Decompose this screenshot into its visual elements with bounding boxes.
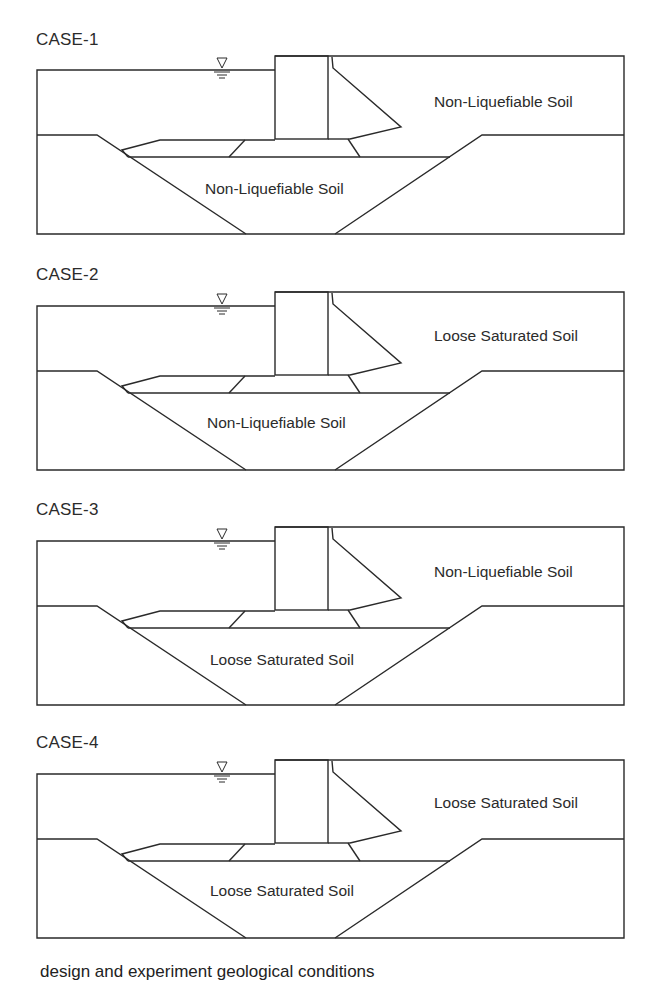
- lower-soil-label: Non-Liquefiable Soil: [207, 414, 346, 432]
- water-level-icon: [214, 58, 230, 78]
- model-boundary: [37, 56, 624, 234]
- rubble-inner-slope-left: [229, 844, 245, 861]
- seabed-right-slope: [335, 135, 624, 234]
- rubble-inner-slope-left: [229, 140, 245, 157]
- backfill-wedge: [332, 293, 401, 375]
- case-2-title: CASE-2: [36, 265, 99, 285]
- backfill-wedge: [332, 528, 401, 610]
- quay-wall-cross-section: [0, 527, 657, 709]
- rubble-inner-slope-right: [348, 375, 360, 393]
- figure-caption: design and experiment geological conditi…: [40, 962, 375, 982]
- lower-soil-label: Non-Liquefiable Soil: [205, 180, 344, 198]
- case-4-title: CASE-4: [36, 733, 99, 753]
- backfill-wedge: [332, 57, 401, 139]
- model-boundary: [37, 760, 624, 938]
- quay-wall-cross-section: [0, 56, 657, 238]
- rubble-mound-left: [122, 140, 275, 157]
- case-4-cross-section: Loose Saturated Soil Loose Saturated Soi…: [0, 760, 657, 942]
- rubble-inner-slope-left: [229, 376, 245, 393]
- upper-soil-label: Loose Saturated Soil: [434, 794, 578, 812]
- case-3-title: CASE-3: [36, 500, 99, 520]
- rubble-inner-slope-right: [348, 610, 360, 628]
- caisson: [275, 292, 328, 375]
- rubble-inner-slope-right: [348, 139, 360, 157]
- upper-soil-label: Non-Liquefiable Soil: [434, 563, 573, 581]
- rubble-mound-left: [122, 611, 275, 628]
- water-level-icon: [214, 294, 230, 314]
- backfill-wedge: [332, 761, 401, 843]
- model-boundary: [37, 292, 624, 470]
- caisson: [275, 760, 328, 843]
- rubble-inner-slope-right: [348, 843, 360, 861]
- model-boundary: [37, 527, 624, 705]
- rubble-inner-slope-left: [229, 611, 245, 628]
- water-level-icon: [214, 762, 230, 782]
- seabed-right-slope: [335, 371, 624, 470]
- rubble-mound-left: [122, 844, 275, 861]
- caisson: [275, 56, 328, 139]
- water-level-icon: [214, 529, 230, 549]
- caisson: [275, 527, 328, 610]
- rubble-mound-left: [122, 376, 275, 393]
- case-1-title: CASE-1: [36, 30, 99, 50]
- quay-wall-cross-section: [0, 760, 657, 942]
- upper-soil-label: Loose Saturated Soil: [434, 327, 578, 345]
- lower-soil-label: Loose Saturated Soil: [210, 882, 354, 900]
- quay-wall-cross-section: [0, 292, 657, 474]
- case-2-cross-section: Loose Saturated Soil Non-Liquefiable Soi…: [0, 292, 657, 474]
- seabed-right-slope: [335, 606, 624, 705]
- case-1-cross-section: Non-Liquefiable Soil Non-Liquefiable Soi…: [0, 56, 657, 238]
- case-3-cross-section: Non-Liquefiable Soil Loose Saturated Soi…: [0, 527, 657, 709]
- lower-soil-label: Loose Saturated Soil: [210, 651, 354, 669]
- upper-soil-label: Non-Liquefiable Soil: [434, 93, 573, 111]
- seabed-right-slope: [335, 839, 624, 938]
